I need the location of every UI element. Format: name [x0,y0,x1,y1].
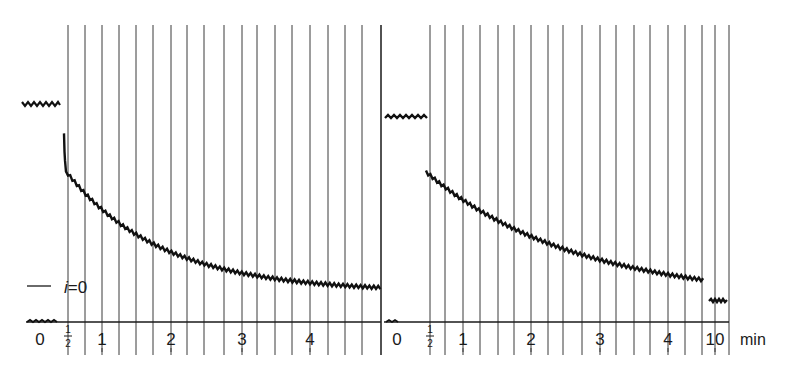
tick-label: 2 [526,330,535,349]
i-zero-label: i=0 [64,278,87,297]
svg-text:2: 2 [65,338,71,349]
tick-label-half: 1 [427,324,433,335]
tick-label: 0 [35,330,44,349]
trace-10-min [709,299,727,302]
tick-label: 4 [305,330,314,349]
baseline-trace-right [386,320,398,322]
chart-figure: i=0 0121234 012123410 min [0,0,787,373]
tick-label: 10 [706,330,725,349]
tick-label: 3 [237,330,246,349]
tick-label: 1 [97,330,106,349]
tick-label: 4 [663,330,672,349]
grid-lines-left [68,25,381,355]
pre-step-level-right [385,115,427,118]
tick-marks-left [102,348,310,352]
tick-marks-right [463,348,715,352]
svg-text:2: 2 [427,338,433,349]
tick-labels-right: 012123410 [392,324,724,349]
tick-labels-left: 0121234 [35,324,314,349]
tick-label: 0 [392,330,401,349]
tick-label-half: 1 [65,324,71,335]
pre-step-level-left [22,102,60,106]
decay-trace-right [426,170,703,281]
decay-trace-left [64,133,380,289]
tick-label: 3 [595,330,604,349]
x-unit-label: min [740,331,766,348]
tick-label: 2 [166,330,175,349]
grid-lines-right [430,25,729,355]
tick-label: 1 [458,330,467,349]
